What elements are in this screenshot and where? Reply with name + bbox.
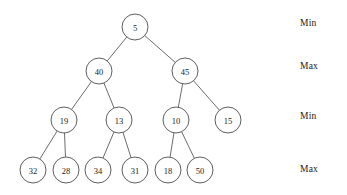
tree-edge-n40-n19 bbox=[72, 82, 92, 110]
tree-edge-n45-n10 bbox=[178, 84, 182, 107]
tree-node-32[interactable]: 32 bbox=[20, 157, 46, 183]
tree-edge-n13-n34 bbox=[103, 132, 114, 158]
node-label-50: 50 bbox=[196, 166, 205, 176]
node-label-31: 31 bbox=[131, 166, 140, 176]
level-label-lvl1: Max bbox=[300, 61, 318, 71]
tree-node-10[interactable]: 10 bbox=[163, 107, 189, 133]
tree-node-28[interactable]: 28 bbox=[53, 157, 79, 183]
tree-node-13[interactable]: 13 bbox=[106, 107, 132, 133]
tree-edge-n19-n28 bbox=[65, 133, 66, 157]
tree-node-18[interactable]: 18 bbox=[155, 157, 181, 183]
node-label-5: 5 bbox=[133, 23, 137, 33]
node-label-34: 34 bbox=[94, 166, 103, 176]
node-label-15: 15 bbox=[224, 116, 233, 126]
tree-node-34[interactable]: 34 bbox=[85, 157, 111, 183]
tree-edge-n5-n40 bbox=[107, 37, 127, 61]
tree-node-15[interactable]: 15 bbox=[215, 107, 241, 133]
tree-node-50[interactable]: 50 bbox=[187, 157, 213, 183]
tree-edge-n45-n15 bbox=[194, 81, 220, 110]
tree-edge-n10-n50 bbox=[182, 132, 195, 159]
tree-node-40[interactable]: 40 bbox=[86, 58, 112, 84]
tree-edge-n10-n18 bbox=[170, 133, 174, 157]
node-label-40: 40 bbox=[95, 67, 104, 77]
node-label-18: 18 bbox=[164, 166, 173, 176]
node-label-28: 28 bbox=[62, 166, 71, 176]
tree-node-19[interactable]: 19 bbox=[51, 107, 77, 133]
level-label-lvl3: Max bbox=[300, 164, 318, 174]
nodes-group: 5404519131015322834311850 bbox=[20, 14, 241, 183]
node-label-13: 13 bbox=[115, 116, 124, 126]
tree-edge-n40-n13 bbox=[104, 83, 114, 108]
tree-node-5[interactable]: 5 bbox=[122, 14, 148, 40]
tree-edge-n5-n45 bbox=[145, 36, 175, 63]
tree-edge-n19-n32 bbox=[40, 131, 57, 159]
min-max-heap-diagram: 5404519131015322834311850 MinMaxMinMax bbox=[0, 0, 347, 195]
tree-node-31[interactable]: 31 bbox=[122, 157, 148, 183]
node-label-32: 32 bbox=[29, 166, 38, 176]
tree-edge-n13-n31 bbox=[123, 132, 131, 157]
node-label-10: 10 bbox=[172, 116, 181, 126]
node-label-45: 45 bbox=[181, 67, 190, 77]
level-label-lvl2: Min bbox=[300, 111, 316, 121]
level-label-lvl0: Min bbox=[300, 18, 316, 28]
tree-graphic: 5404519131015322834311850 bbox=[0, 0, 347, 195]
edges-group bbox=[40, 36, 220, 159]
tree-node-45[interactable]: 45 bbox=[172, 58, 198, 84]
node-label-19: 19 bbox=[60, 116, 69, 126]
